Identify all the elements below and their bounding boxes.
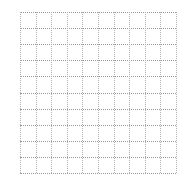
grid-column-line (129, 12, 130, 173)
canvas (0, 0, 184, 182)
grid-column-line (82, 12, 83, 173)
grid-column-line (176, 12, 177, 173)
grid-column-line (114, 12, 115, 173)
grid-row-line (20, 173, 176, 174)
grid-column-line (67, 12, 68, 173)
grid-column-line (145, 12, 146, 173)
grid-column-line (36, 12, 37, 173)
grid-column-line (20, 12, 21, 173)
grid-column-line (51, 12, 52, 173)
dotted-grid (20, 12, 176, 173)
grid-column-line (160, 12, 161, 173)
grid-column-line (98, 12, 99, 173)
